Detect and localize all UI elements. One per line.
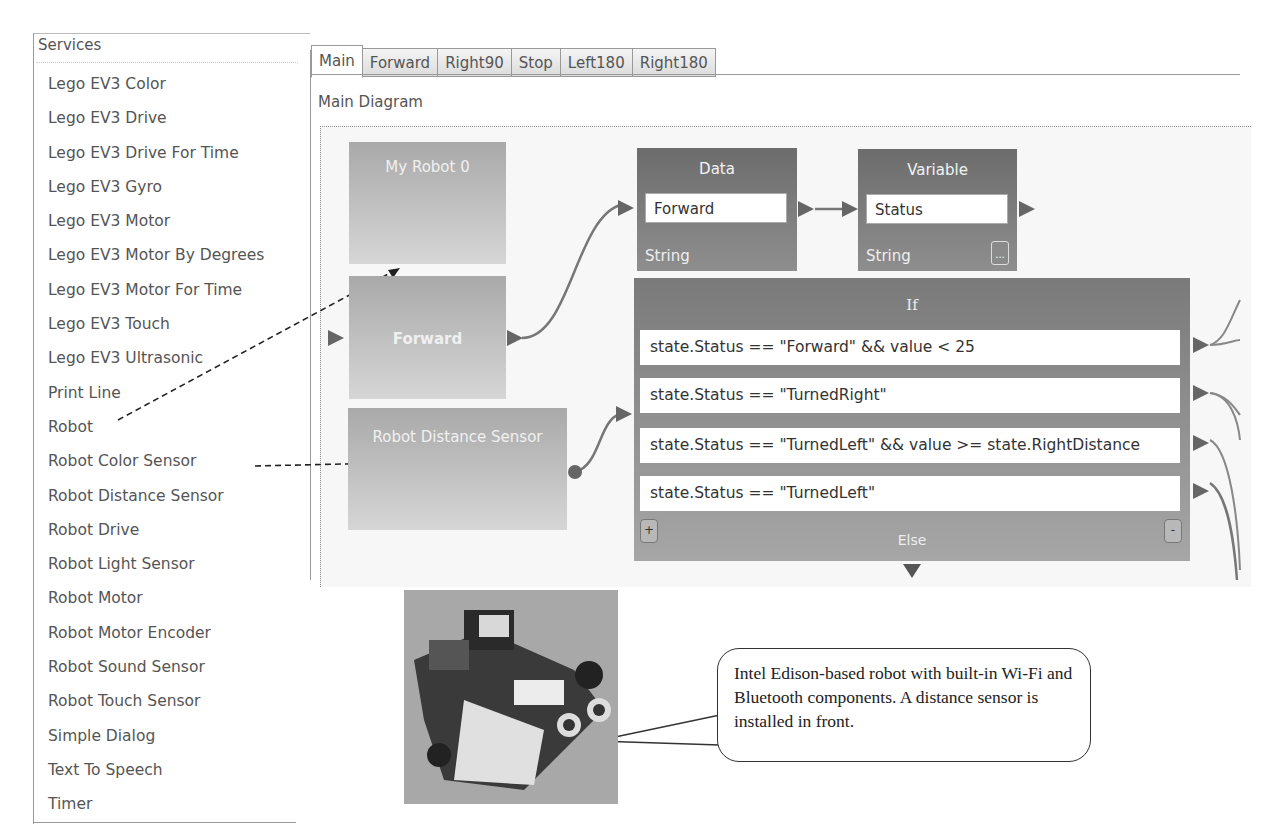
- variable-value-field[interactable]: Status: [866, 194, 1008, 224]
- forward-output-arrow-icon[interactable]: [507, 330, 523, 346]
- variable-input-arrow-icon[interactable]: [842, 201, 858, 217]
- data-input-arrow-icon[interactable]: [618, 200, 634, 216]
- callout-text: Intel Edison-based robot with built-in W…: [734, 661, 1084, 733]
- else-output-arrow-icon[interactable]: [903, 564, 921, 578]
- data-block[interactable]: Data Forward String: [637, 148, 797, 271]
- variable-output-arrow-icon[interactable]: [1019, 201, 1035, 217]
- if-output-1-arrow-icon[interactable]: [1193, 337, 1209, 353]
- if-output-3-arrow-icon[interactable]: [1193, 435, 1209, 451]
- distance-sensor-block[interactable]: Robot Distance Sensor: [348, 408, 567, 530]
- remove-condition-button[interactable]: -: [1164, 519, 1182, 543]
- if-condition-3[interactable]: state.Status == "TurnedLeft" && value >=…: [640, 428, 1180, 463]
- my-robot-block[interactable]: My Robot 0: [349, 142, 506, 264]
- if-block[interactable]: If state.Status == "Forward" && value < …: [634, 278, 1190, 561]
- variable-title: Variable: [858, 149, 1017, 179]
- my-robot-label: My Robot 0: [349, 142, 506, 176]
- variable-type: String: [866, 247, 911, 265]
- data-title: Data: [637, 148, 797, 178]
- data-type: String: [645, 247, 690, 265]
- variable-block[interactable]: Variable Status String ...: [858, 149, 1017, 271]
- data-value-field[interactable]: Forward: [645, 193, 787, 223]
- forward-label: Forward: [349, 276, 506, 348]
- robot-photo: [404, 590, 618, 804]
- if-output-4-arrow-icon[interactable]: [1193, 483, 1209, 499]
- if-condition-1[interactable]: state.Status == "Forward" && value < 25: [640, 330, 1180, 365]
- robot-description-callout: Intel Edison-based robot with built-in W…: [717, 648, 1091, 762]
- forward-input-arrow-icon[interactable]: [328, 330, 344, 346]
- variable-options-button[interactable]: ...: [991, 241, 1009, 265]
- if-condition-4[interactable]: state.Status == "TurnedLeft": [640, 476, 1180, 511]
- if-condition-2[interactable]: state.Status == "TurnedRight": [640, 378, 1180, 413]
- else-label: Else: [634, 532, 1190, 548]
- if-title: If: [634, 296, 1190, 314]
- forward-block[interactable]: Forward: [349, 276, 506, 399]
- if-input-arrow-icon[interactable]: [616, 406, 632, 422]
- if-output-2-arrow-icon[interactable]: [1193, 385, 1209, 401]
- robot-image-icon: [404, 590, 618, 804]
- data-output-arrow-icon[interactable]: [798, 201, 814, 217]
- distance-sensor-label: Robot Distance Sensor: [348, 408, 567, 446]
